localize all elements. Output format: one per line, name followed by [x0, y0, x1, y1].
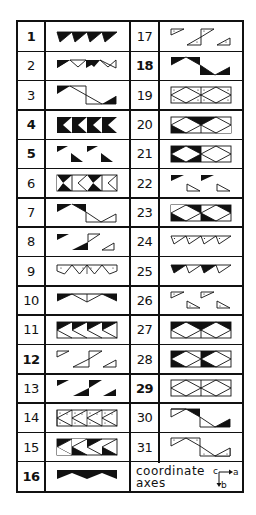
frieze-pattern-icon [169, 84, 233, 106]
group-number: 23 [131, 198, 158, 227]
group-number: 25 [131, 257, 158, 286]
frieze-pattern-icon [169, 407, 233, 429]
frieze-pattern-13 [46, 374, 130, 403]
frieze-pattern-icon [55, 172, 119, 194]
frieze-pattern-icon [169, 26, 233, 48]
frieze-pattern-1 [46, 22, 130, 51]
frieze-pattern-icon [55, 114, 119, 136]
group-number: 17 [131, 22, 158, 51]
frieze-pattern-icon [169, 436, 233, 458]
group-number: 5 [18, 139, 44, 168]
group-number: 10 [18, 286, 44, 315]
group-number: 21 [131, 139, 158, 168]
svg-text:a: a [233, 467, 239, 477]
frieze-pattern-18 [160, 51, 243, 80]
group-number: 3 [18, 81, 44, 110]
group-number: 2 [18, 51, 44, 80]
frieze-pattern-12 [46, 344, 130, 373]
frieze-pattern-20 [160, 110, 243, 139]
frieze-pattern-5 [46, 139, 130, 168]
frieze-pattern-8 [46, 227, 130, 256]
group-number: 9 [18, 257, 44, 286]
frieze-pattern-28 [160, 344, 243, 373]
frieze-pattern-9 [46, 257, 130, 286]
group-number: 22 [131, 169, 158, 198]
group-number: 31 [131, 432, 158, 461]
frieze-pattern-31 [160, 432, 243, 461]
frieze-pattern-icon [55, 436, 119, 458]
frieze-pattern-10 [46, 286, 130, 315]
group-number: 16 [18, 462, 44, 491]
frieze-pattern-26 [160, 286, 243, 315]
group-number: 7 [18, 198, 44, 227]
frieze-pattern-17 [160, 22, 243, 51]
group-number: 29 [131, 374, 158, 403]
group-number: 20 [131, 110, 158, 139]
frieze-pattern-23 [160, 198, 243, 227]
frieze-pattern-27 [160, 315, 243, 344]
frieze-pattern-icon [169, 319, 233, 341]
group-number: 27 [131, 315, 158, 344]
group-number: 19 [131, 81, 158, 110]
frieze-pattern-icon [55, 26, 119, 48]
frieze-pattern-29 [160, 374, 243, 403]
legend-label-line2: axes [136, 477, 205, 489]
group-number: 30 [131, 403, 158, 432]
frieze-group-table: 123456789101112131415 1617 1819 20 21 22… [16, 20, 244, 493]
legend-label: coordinate axes [136, 465, 205, 489]
frieze-pattern-icon [169, 348, 233, 370]
frieze-pattern-16 [46, 462, 130, 491]
group-number: 1 [18, 22, 44, 51]
group-number: 12 [18, 344, 44, 373]
frieze-pattern-icon [55, 231, 119, 253]
frieze-pattern-icon [55, 84, 119, 106]
group-number: 11 [18, 315, 44, 344]
frieze-pattern-21 [160, 139, 243, 168]
group-number: 26 [131, 286, 158, 315]
group-number: 18 [131, 51, 158, 80]
svg-text:c: c [213, 466, 218, 476]
frieze-pattern-icon [169, 143, 233, 165]
frieze-pattern-icon [169, 377, 233, 399]
frieze-pattern-15 [46, 432, 130, 461]
frieze-pattern-icon [169, 260, 233, 282]
group-number: 14 [18, 403, 44, 432]
frieze-pattern-24 [160, 227, 243, 256]
frieze-pattern-icon [55, 289, 119, 311]
group-number: 4 [18, 110, 44, 139]
group-number: 28 [131, 344, 158, 373]
frieze-pattern-icon [55, 202, 119, 224]
frieze-pattern-icon [169, 55, 233, 77]
frieze-pattern-icon [55, 55, 119, 77]
frieze-pattern-3 [46, 81, 130, 110]
frieze-pattern-icon [169, 202, 233, 224]
frieze-pattern-icon [55, 465, 119, 487]
frieze-pattern-icon [169, 289, 233, 311]
frieze-pattern-icon [55, 260, 119, 282]
frieze-pattern-2 [46, 51, 130, 80]
frieze-pattern-7 [46, 198, 130, 227]
group-number: 8 [18, 227, 44, 256]
frieze-pattern-icon [55, 319, 119, 341]
frieze-pattern-19 [160, 81, 243, 110]
group-number: 15 [18, 432, 44, 461]
frieze-pattern-30 [160, 403, 243, 432]
coordinate-axes-icon: c a b [209, 466, 239, 490]
frieze-pattern-icon [169, 114, 233, 136]
group-number: 13 [18, 374, 44, 403]
frieze-pattern-icon [169, 172, 233, 194]
frieze-pattern-6 [46, 169, 130, 198]
frieze-pattern-4 [46, 110, 130, 139]
group-number: 24 [131, 227, 158, 256]
frieze-pattern-icon [55, 407, 119, 429]
frieze-pattern-22 [160, 169, 243, 198]
frieze-pattern-icon [169, 231, 233, 253]
frieze-pattern-14 [46, 403, 130, 432]
frieze-pattern-11 [46, 315, 130, 344]
frieze-pattern-25 [160, 257, 243, 286]
group-number: 6 [18, 169, 44, 198]
svg-text:b: b [221, 480, 227, 490]
frieze-pattern-icon [55, 377, 119, 399]
frieze-pattern-icon [55, 143, 119, 165]
frieze-pattern-icon [55, 348, 119, 370]
